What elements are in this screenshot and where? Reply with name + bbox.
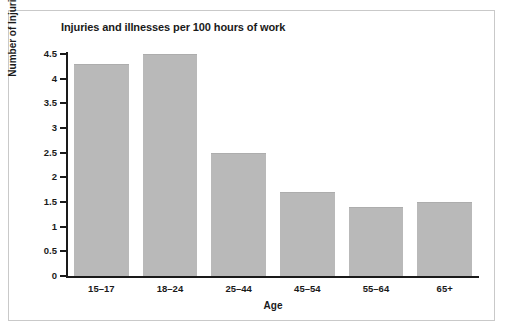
- y-tick-mark: [60, 275, 67, 277]
- y-tick-label: 4: [52, 72, 57, 85]
- y-tick-mark: [60, 226, 67, 228]
- y-tick-label: 2.5: [44, 146, 57, 159]
- y-tick-label: 1.5: [44, 195, 57, 208]
- y-tick-label: 1: [52, 220, 57, 233]
- y-tick-mark: [60, 53, 67, 55]
- bar: [143, 54, 198, 276]
- bar: [211, 153, 266, 276]
- bar: [74, 64, 129, 276]
- x-tick-label: 18–24: [136, 283, 205, 294]
- y-tick-mark: [60, 152, 67, 154]
- y-axis-title: Number of Injuries/Illnesses: [7, 0, 18, 95]
- x-tick-label: 55–64: [342, 283, 411, 294]
- x-tick-label: 65+: [410, 283, 479, 294]
- x-tick-label: 25–44: [204, 283, 273, 294]
- y-tick-label: 2: [52, 170, 57, 183]
- chart-figure: Injuries and illnesses per 100 hours of …: [8, 10, 495, 321]
- y-tick-mark: [60, 201, 67, 203]
- x-axis-line: [66, 276, 479, 278]
- x-tick-label: 45–54: [273, 283, 342, 294]
- bar: [417, 202, 472, 276]
- x-axis-title: Age: [67, 300, 479, 311]
- y-tick-mark: [60, 127, 67, 129]
- y-tick-label: 0.5: [44, 244, 57, 257]
- y-tick-label: 3.5: [44, 96, 57, 109]
- y-tick-mark: [60, 102, 67, 104]
- chart-title: Injuries and illnesses per 100 hours of …: [61, 21, 285, 33]
- y-tick-label: 0: [52, 269, 57, 282]
- bar: [349, 207, 404, 276]
- y-tick-mark: [60, 176, 67, 178]
- y-tick-label: 4.5: [44, 47, 57, 60]
- y-tick-label: 3: [52, 121, 57, 134]
- y-tick-mark: [60, 250, 67, 252]
- bar: [280, 192, 335, 276]
- y-tick-mark: [60, 78, 67, 80]
- x-tick-label: 15–17: [67, 283, 136, 294]
- plot-area: [67, 54, 479, 276]
